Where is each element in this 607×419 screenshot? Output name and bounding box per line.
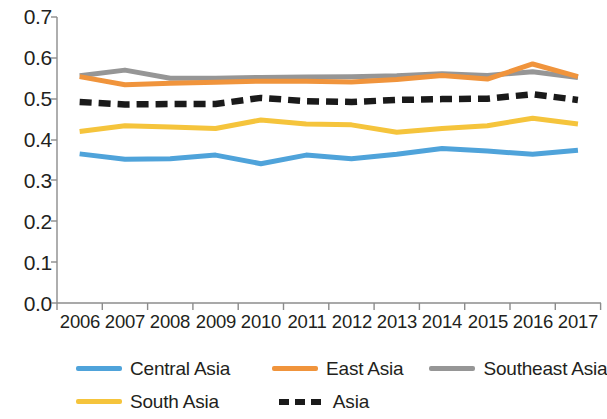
- chart-legend: Central Asia East Asia Southeast Asia So…: [0, 352, 605, 418]
- x-tick-label-2011: 2011: [284, 313, 330, 332]
- legend-row-2: South Asia Asia: [0, 385, 605, 418]
- legend-label-south-asia: South Asia: [130, 391, 219, 413]
- x-tick-label-2008: 2008: [147, 313, 193, 332]
- legend-swatch-central-asia-icon: [76, 366, 122, 371]
- x-tick-label-2006: 2006: [57, 313, 103, 332]
- legend-item-south-asia[interactable]: South Asia: [76, 391, 219, 413]
- x-tick-label-2007: 2007: [102, 313, 148, 332]
- legend-swatch-south-asia-icon: [76, 399, 122, 404]
- x-tick-label-2016: 2016: [510, 313, 556, 332]
- legend-label-east-asia: East Asia: [326, 358, 403, 380]
- y-axis-ticks: [51, 17, 57, 303]
- x-tick-label-2010: 2010: [238, 313, 284, 332]
- series-line-south-asia: [80, 118, 578, 132]
- legend-item-central-asia[interactable]: Central Asia: [76, 358, 230, 380]
- x-tick-label-2014: 2014: [419, 313, 465, 332]
- x-axis-ticks: [57, 303, 601, 310]
- legend-row-1: Central Asia East Asia Southeast Asia: [0, 352, 605, 385]
- x-tick-label-2015: 2015: [465, 313, 511, 332]
- legend-label-asia: Asia: [333, 391, 369, 413]
- legend-label-southeast-asia: Southeast Asia: [483, 358, 607, 380]
- data-series-layer: [80, 64, 578, 164]
- series-line-asia: [80, 94, 578, 104]
- legend-item-asia[interactable]: Asia: [279, 391, 369, 413]
- legend-swatch-southeast-asia-icon: [429, 366, 475, 371]
- x-tick-label-2013: 2013: [374, 313, 420, 332]
- legend-item-southeast-asia[interactable]: Southeast Asia: [429, 358, 607, 380]
- x-tick-label-2009: 2009: [193, 313, 239, 332]
- legend-swatch-asia-icon: [279, 399, 325, 405]
- x-tick-label-2012: 2012: [329, 313, 375, 332]
- x-tick-label-2017: 2017: [555, 313, 601, 332]
- legend-swatch-east-asia-icon: [272, 366, 318, 371]
- legend-label-central-asia: Central Asia: [130, 358, 230, 380]
- series-line-central-asia: [80, 149, 578, 164]
- legend-item-east-asia[interactable]: East Asia: [272, 358, 403, 380]
